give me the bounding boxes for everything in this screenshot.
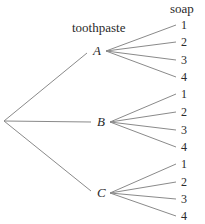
soap-header: soap xyxy=(170,2,194,15)
toothpaste-header: toothpaste xyxy=(72,21,125,34)
leaf-a-2: 2 xyxy=(181,36,187,48)
leaf-b-4: 4 xyxy=(181,141,187,153)
leaf-b-2: 2 xyxy=(181,106,187,118)
branch-c-2 xyxy=(110,182,176,193)
leaf-b-1: 1 xyxy=(181,88,187,100)
node-b: B xyxy=(97,115,105,128)
leaf-a-3: 3 xyxy=(181,54,187,66)
branch-a-4 xyxy=(106,51,176,77)
branch-b-1 xyxy=(110,94,176,122)
leaf-c-1: 1 xyxy=(181,158,187,170)
leaf-c-3: 3 xyxy=(181,193,187,205)
branch-a-2 xyxy=(106,42,176,51)
branch-a-3 xyxy=(106,51,176,60)
leaf-c-4: 4 xyxy=(181,210,187,222)
node-a: A xyxy=(93,44,101,57)
leaf-b-3: 3 xyxy=(181,124,187,136)
leaf-a-1: 1 xyxy=(181,19,187,31)
branch-root-c xyxy=(4,121,91,191)
branch-c-1 xyxy=(110,164,176,193)
node-c: C xyxy=(97,186,106,199)
branch-b-2 xyxy=(110,112,176,122)
leaf-c-2: 2 xyxy=(181,176,187,188)
branch-root-a xyxy=(4,53,87,121)
branch-root-b xyxy=(4,121,91,122)
leaf-a-4: 4 xyxy=(181,71,187,83)
